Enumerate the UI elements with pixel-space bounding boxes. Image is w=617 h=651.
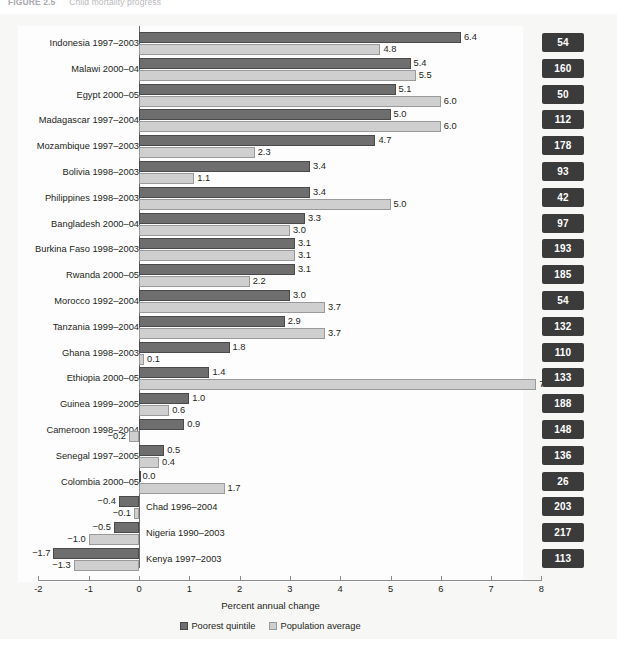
bar-row: Rwanda 2000–053.12.2 — [18, 264, 523, 287]
bar-population-average — [139, 250, 295, 261]
bar-row: Senegal 1997–20050.50.4 — [18, 445, 523, 468]
bar-population-average — [139, 276, 250, 287]
bar-value-label: 2.3 — [258, 147, 271, 158]
legend-item: Population average — [269, 621, 360, 631]
side-value-box: 54 — [542, 33, 584, 52]
category-label: Tanzania 1999–2004 — [53, 322, 139, 333]
side-value-box: 50 — [542, 85, 584, 104]
bar-value-label: 3.1 — [298, 238, 311, 249]
bar-row: Philippines 1998–20033.45.0 — [18, 187, 523, 210]
bar-value-label: 3.4 — [313, 187, 326, 198]
bar-row: Tanzania 1999–20042.93.7 — [18, 316, 523, 339]
bar-value-label: 3.3 — [308, 213, 321, 224]
bar-value-label: −0.2 — [108, 431, 126, 442]
category-label: Ethiopia 2000–05 — [67, 373, 139, 384]
bar-population-average — [139, 328, 325, 339]
bar-value-label: −0.4 — [98, 496, 116, 507]
x-axis-tick-label: 1 — [187, 584, 192, 594]
x-axis-tick — [89, 576, 90, 581]
x-axis-tick-label: -1 — [85, 584, 93, 594]
bar-row: Malawi 2000–045.45.5 — [18, 58, 523, 81]
category-label: Rwanda 2000–05 — [66, 270, 139, 281]
bar-poorest-quintile — [114, 522, 139, 533]
bar-row: Guinea 1999–20051.00.6 — [18, 393, 523, 416]
bar-value-label: 2.2 — [253, 276, 266, 287]
bar-poorest-quintile — [139, 187, 310, 198]
legend-item: Poorest quintile — [180, 621, 255, 631]
side-value-box: 193 — [542, 239, 584, 258]
figure-number: FIGURE 2.5 — [8, 0, 55, 7]
figure-caption: FIGURE 2.5Child mortality progress — [8, 0, 161, 10]
bar-value-label: 6.0 — [444, 121, 457, 132]
bar-poorest-quintile — [139, 161, 310, 172]
bar-row: Morocco 1992–20043.03.7 — [18, 290, 523, 313]
x-axis-tick — [38, 576, 39, 581]
side-value-box: 148 — [542, 420, 584, 439]
category-label: Bangladesh 2000–04 — [51, 219, 139, 230]
bar-poorest-quintile — [139, 109, 391, 120]
x-axis-tick — [189, 576, 190, 581]
bar-value-label: 4.8 — [383, 44, 396, 55]
bar-population-average — [129, 431, 139, 442]
bar-poorest-quintile — [139, 84, 396, 95]
bar-value-label: 1.8 — [233, 342, 246, 353]
legend-swatch-icon — [180, 622, 188, 630]
bar-row: Ghana 1998–20031.80.1 — [18, 342, 523, 365]
side-value-box: 160 — [542, 59, 584, 78]
x-axis-tick-label: 7 — [489, 584, 494, 594]
bar-poorest-quintile — [139, 445, 164, 456]
bar-value-label: 3.1 — [298, 264, 311, 275]
legend-label: Poorest quintile — [191, 621, 255, 631]
x-axis-tick-label: -2 — [34, 584, 42, 594]
bar-row: Chad 1996–2004−0.4−0.1 — [18, 496, 523, 519]
bar-row: Burkina Faso 1998–20033.13.1 — [18, 238, 523, 261]
side-value-box: 178 — [542, 136, 584, 155]
bar-value-label: 6.4 — [464, 32, 477, 43]
category-label: Ghana 1998–2003 — [62, 348, 139, 359]
x-axis-tick — [139, 576, 140, 581]
bar-population-average — [139, 302, 325, 313]
bar-row: Bangladesh 2000–043.33.0 — [18, 213, 523, 236]
bar-poorest-quintile — [139, 316, 285, 327]
bar-value-label: 6.0 — [444, 96, 457, 107]
x-axis-tick-label: 8 — [539, 584, 544, 594]
x-axis-tick-label: 5 — [388, 584, 393, 594]
bar-value-label: 0.5 — [167, 445, 180, 456]
bar-poorest-quintile — [139, 264, 295, 275]
bar-value-label: −0.5 — [93, 522, 111, 533]
bar-population-average — [139, 405, 169, 416]
bar-poorest-quintile — [139, 290, 290, 301]
bar-value-label: 1.4 — [212, 367, 225, 378]
bar-population-average — [139, 147, 255, 158]
bar-value-label: 0.4 — [162, 457, 175, 468]
side-value-box: 188 — [542, 394, 584, 413]
x-axis-tick-label: 3 — [287, 584, 292, 594]
chart-legend: Poorest quintilePopulation average — [18, 620, 523, 631]
legend-swatch-icon — [269, 622, 277, 630]
side-value-box: 110 — [542, 343, 584, 362]
bar-population-average — [139, 354, 144, 365]
category-label: Kenya 1997–2003 — [146, 554, 221, 565]
x-axis-tick — [391, 576, 392, 581]
bar-value-label: 1.1 — [197, 173, 210, 184]
category-label: Philippines 1998–2003 — [45, 193, 139, 204]
bar-poorest-quintile — [139, 367, 209, 378]
bar-row: Bolivia 1998–20033.41.1 — [18, 161, 523, 184]
x-axis-tick — [441, 576, 442, 581]
bar-poorest-quintile — [139, 58, 411, 69]
bar-value-label: 5.5 — [419, 70, 432, 81]
bar-population-average — [139, 96, 441, 107]
bar-value-label: 3.0 — [293, 225, 306, 236]
bar-value-label: 3.4 — [313, 161, 326, 172]
bar-poorest-quintile — [53, 548, 139, 559]
plot-surface: Indonesia 1997–20036.44.8Malawi 2000–045… — [18, 26, 523, 582]
chart-panel: Indonesia 1997–20036.44.8Malawi 2000–045… — [0, 14, 617, 639]
side-value-box: 97 — [542, 214, 584, 233]
category-label: Mozambique 1997–2003 — [37, 141, 139, 152]
bar-poorest-quintile — [139, 419, 184, 430]
x-axis-tick-label: 6 — [438, 584, 443, 594]
bar-population-average — [139, 173, 194, 184]
bar-value-label: 5.0 — [394, 199, 407, 210]
bar-value-label: 4.7 — [378, 135, 391, 146]
category-label: Nigeria 1990–2003 — [146, 528, 225, 539]
